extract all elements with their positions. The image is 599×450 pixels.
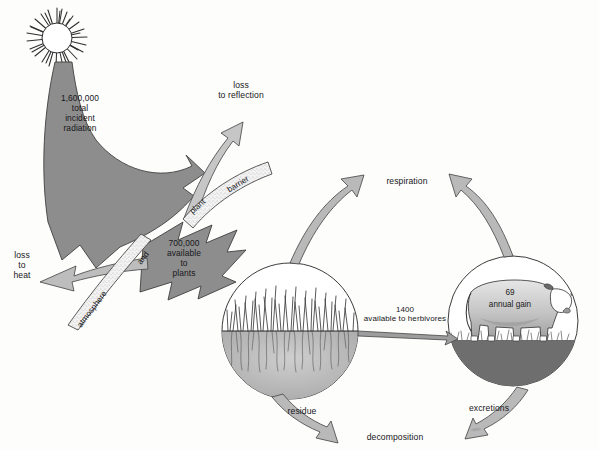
cow-annual-gain-value: 69 bbox=[487, 288, 533, 298]
respiration-label: respiration bbox=[367, 176, 447, 186]
residue-label: residue bbox=[272, 406, 332, 416]
diagram-graphics bbox=[0, 0, 599, 450]
grass-circle bbox=[222, 263, 358, 399]
available-to-plants-label: 700,000 available to plants bbox=[148, 239, 220, 279]
excretions-label: excretions bbox=[452, 403, 526, 413]
cow-annual-gain-caption: annual gain bbox=[479, 300, 541, 310]
loss-to-heat-label: loss to heat bbox=[2, 250, 42, 280]
diagram-canvas: 1,600,000 total incident radiation 700,0… bbox=[0, 0, 599, 450]
residue-arrow bbox=[272, 394, 338, 443]
loss-to-reflection-label: loss to reflection bbox=[196, 80, 286, 100]
sun-icon bbox=[27, 8, 87, 68]
respiration-arrow-left bbox=[290, 175, 364, 264]
incident-radiation-label: 1,600,000 total incident radiation bbox=[40, 94, 120, 134]
available-to-herbivores-arrow bbox=[358, 331, 458, 345]
available-to-herbivores-label: 1400 available to herbivores bbox=[349, 305, 461, 324]
respiration-arrow-right bbox=[449, 174, 513, 257]
decomposition-label: decomposition bbox=[345, 432, 445, 442]
cow-circle bbox=[448, 256, 578, 386]
